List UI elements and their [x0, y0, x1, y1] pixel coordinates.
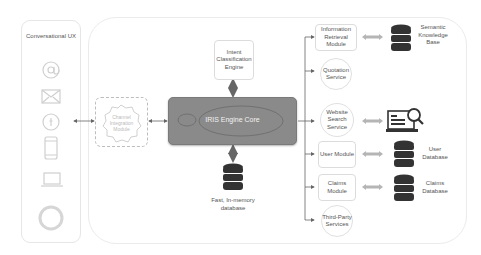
channel-integration-module: Channel Integration Module	[95, 97, 148, 147]
iris-engine-core: IRIS Engine Core	[168, 97, 297, 145]
claims-database-icon	[393, 174, 415, 202]
database-icon	[222, 163, 244, 191]
user-database-icon	[393, 140, 415, 168]
user-module: User Module	[318, 141, 356, 168]
semantic-kb-label: Semantic Knowledge Base	[413, 24, 453, 47]
memory-db-label: Fast, In-memory database	[205, 197, 261, 212]
intent-classification-engine: Intent Classification Engine	[214, 40, 254, 80]
information-retrieval-module: Information Retrieval Module	[315, 24, 357, 51]
engine-label: IRIS Engine Core	[169, 116, 296, 123]
semantic-kb-database-icon	[390, 24, 412, 52]
quotation-service: Quotation Service	[320, 58, 352, 90]
website-search-service: Website Search Service	[320, 103, 354, 137]
claims-database-label: Claims Database	[418, 180, 452, 195]
web-search-icon	[386, 107, 426, 135]
claims-module: Claims Module	[318, 174, 356, 201]
user-database-label: User Database	[418, 146, 452, 161]
third-party-services: Third-Party Services	[321, 205, 353, 237]
